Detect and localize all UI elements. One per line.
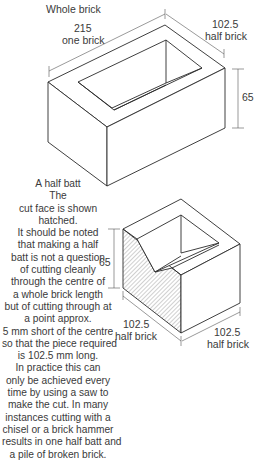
whole-brick-title: Whole brick	[46, 3, 101, 15]
half-batt-drawing	[123, 199, 240, 333]
caption-line: but of cutting through at	[2, 301, 114, 313]
whole-brick-width-value: 102.5	[212, 18, 238, 30]
whole-brick-length-value: 215	[74, 22, 92, 34]
caption-line: It should be noted	[2, 227, 114, 239]
caption-line: time by using a saw to	[2, 387, 114, 399]
caption-line: make the cut. In many	[2, 399, 114, 411]
caption-line: instances cutting with a	[2, 412, 114, 424]
caption-line: so that the piece required	[2, 338, 114, 350]
caption-line: In practice this can	[2, 362, 114, 374]
caption-line: chisel or a brick hammer	[2, 424, 114, 436]
caption-line: only be achieved every	[2, 375, 114, 387]
caption-line: The	[2, 190, 114, 202]
half-batt-width-value: 102.5	[214, 326, 240, 338]
whole-brick-height-value: 65	[242, 91, 254, 103]
half-batt-depth-value: 102.5	[123, 318, 149, 330]
caption-line: a point approx.	[2, 313, 114, 325]
half-batt-caption: A half batt The cut face is shown hatche…	[2, 178, 114, 461]
caption-line: that making a half	[2, 239, 114, 251]
caption-line: a pile of broken brick.	[2, 449, 114, 461]
whole-brick-drawing	[48, 25, 225, 186]
caption-line: is 102.5 mm long.	[2, 350, 114, 362]
caption-line: cut face is shown	[2, 203, 114, 215]
caption-line: A half batt	[2, 178, 114, 190]
caption-line: batt is not a question	[2, 252, 114, 264]
caption-line: of cutting cleanly	[2, 264, 114, 276]
half-batt-depth-label: half brick	[115, 330, 157, 342]
caption-line: hatched.	[2, 215, 114, 227]
caption-line: 5 mm short of the centre	[2, 326, 114, 338]
caption-line: through the centre of	[2, 276, 114, 288]
whole-brick-length-label: one brick	[62, 34, 105, 46]
whole-brick-width-label: half brick	[205, 30, 247, 42]
caption-line: a whole brick length	[2, 289, 114, 301]
caption-line: results in one half batt and	[2, 436, 114, 448]
half-batt-width-label: half brick	[207, 338, 249, 350]
